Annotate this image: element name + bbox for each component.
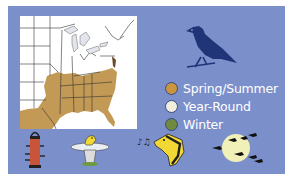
spring-summer-swatch-icon — [165, 82, 178, 95]
perched-bird-icon — [183, 21, 238, 73]
legend-item-spring-summer: Spring/Summer — [165, 79, 278, 97]
legend-item-year-round: Year-Round — [165, 97, 278, 115]
legend-label: Spring/Summer — [183, 81, 278, 96]
year-round-swatch-icon — [165, 100, 178, 113]
bird-bath-icon — [70, 130, 110, 170]
migration-moon-icon — [204, 130, 268, 170]
svg-text:♪♫: ♪♫ — [137, 137, 151, 147]
range-map — [20, 16, 137, 129]
singing-bird-icon: ♪♫ — [134, 130, 186, 170]
winter-swatch-icon — [165, 118, 178, 131]
legend-label: Year-Round — [183, 99, 251, 114]
season-legend: Spring/Summer Year-Round Winter — [165, 79, 278, 133]
range-card: Spring/Summer Year-Round Winter ♪♫ — [8, 6, 285, 174]
bird-feeder-icon — [22, 130, 48, 170]
